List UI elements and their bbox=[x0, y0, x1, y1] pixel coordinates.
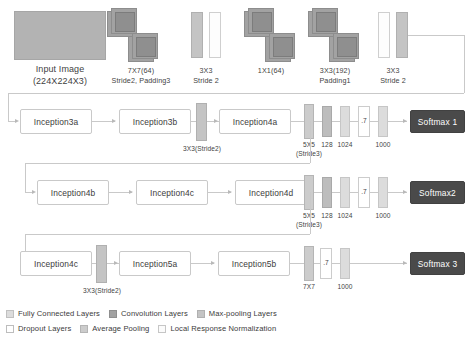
wire-aux2-c bbox=[350, 192, 358, 193]
legend: Fully Connected Layers Convolution Layer… bbox=[6, 306, 466, 336]
maxpool-row1-label: 3X3(Stride2) bbox=[166, 145, 238, 154]
arrow-pool-to-5a bbox=[114, 261, 118, 265]
conv-3x3-192-label-line1: 3X3(192) bbox=[301, 66, 369, 75]
fc-1024-aux1 bbox=[340, 106, 350, 137]
conv-3x3-192-label-line2: Padding1 bbox=[301, 76, 369, 85]
softmax-1-box[interactable]: Softmax 1 bbox=[410, 110, 465, 133]
wire-row1-wrap-down bbox=[25, 163, 26, 192]
head-out-label: 1000 bbox=[332, 283, 358, 292]
maxpool-3x3-bar bbox=[191, 12, 203, 58]
arrow-3a-to-3b bbox=[112, 119, 116, 123]
arrow-into-inception3a bbox=[15, 119, 19, 123]
wire-aux2-a bbox=[314, 192, 322, 193]
legend-row-2: Dropout Layers Average Pooling Local Res… bbox=[6, 321, 466, 336]
diagram-canvas: Input Image (224X224X3) 7X7(64) Stride2,… bbox=[0, 0, 471, 344]
legend-label-convolution: Convolution Layers bbox=[121, 309, 188, 318]
wire-aux1-d bbox=[370, 121, 378, 122]
wire-row2-wrap-left bbox=[25, 234, 310, 235]
legend-item-fully-connected-layers: Fully Connected Layers bbox=[6, 309, 100, 318]
avgpool-5x5-aux2 bbox=[304, 175, 314, 210]
softmax-2-box[interactable]: Softmax2 bbox=[410, 181, 465, 204]
maxpool-3x3-bar-2 bbox=[396, 12, 408, 58]
wire-4a-branch-down bbox=[310, 121, 311, 163]
legend-item-max-pooling-layers: Max-pooling Layers bbox=[197, 309, 277, 318]
pool2-label-line2: Stride 2 bbox=[363, 76, 423, 85]
fc-1000-aux2 bbox=[378, 177, 388, 208]
wire-aux2-b bbox=[332, 192, 340, 193]
fc-1024-aux2 bbox=[340, 177, 350, 208]
head-pool-label: 7X7 bbox=[296, 283, 322, 292]
block-inception3b[interactable]: Inception3b bbox=[119, 109, 191, 134]
avgpool-5x5-aux1 bbox=[304, 104, 314, 139]
wire-stem-to-right bbox=[408, 35, 464, 36]
arrow-pool-to-4a bbox=[214, 119, 218, 123]
block-inception4a[interactable]: Inception4a bbox=[219, 109, 291, 134]
input-image-block bbox=[14, 11, 106, 60]
aux2-fc-label: 1024 bbox=[332, 212, 358, 221]
legend-label-fully-connected: Fully Connected Layers bbox=[18, 309, 100, 318]
block-inception4b[interactable]: Inception4b bbox=[37, 180, 109, 205]
softmax-3-box[interactable]: Softmax 3 bbox=[410, 252, 465, 275]
maxpool-row3-label: 3X3(Stride2) bbox=[66, 287, 138, 296]
legend-swatch-dropout bbox=[6, 325, 14, 333]
aux1-out-label: 1000 bbox=[370, 141, 396, 150]
block-inception4b-label: Inception4b bbox=[51, 188, 95, 198]
wire-left-down-row1 bbox=[8, 93, 9, 121]
conv-128-aux2 bbox=[322, 177, 332, 208]
wire-4d-branch-down bbox=[310, 192, 311, 234]
aux2-pool-label-line2: (Stride3) bbox=[291, 221, 327, 230]
block-inception5b[interactable]: Inception5b bbox=[218, 251, 290, 276]
block-inception3b-label: Inception3b bbox=[133, 117, 177, 127]
fc-1000-aux1 bbox=[378, 106, 388, 137]
legend-label-max-pooling: Max-pooling Layers bbox=[209, 309, 277, 318]
pool1-label-line1: 3X3 bbox=[176, 66, 236, 75]
block-inception5b-label: Inception5b bbox=[232, 259, 276, 269]
wire-aux2-d bbox=[370, 192, 378, 193]
legend-swatch-convolution bbox=[109, 310, 117, 318]
legend-item-convolution-layers: Convolution Layers bbox=[109, 309, 188, 318]
legend-swatch-lrn bbox=[158, 325, 166, 333]
block-inception3a-label: Inception3a bbox=[34, 117, 78, 127]
dropout-aux1-label: .7 bbox=[358, 117, 370, 126]
arrow-into-inception4b bbox=[32, 190, 36, 194]
wire-aux1-b bbox=[332, 121, 340, 122]
wire-head-to-softmax bbox=[350, 263, 407, 264]
lrn-bar-1 bbox=[209, 12, 221, 58]
arrow-head-to-softmax bbox=[403, 261, 407, 265]
conv-1x1-label-line1: 1X1(64) bbox=[238, 66, 304, 75]
block-inception4d-label: Inception4d bbox=[249, 188, 293, 198]
conv-7x7-label-line2: Stride2, Padding3 bbox=[98, 76, 184, 85]
legend-swatch-average-pooling bbox=[80, 325, 88, 333]
block-inception4c-row3[interactable]: Inception4c bbox=[20, 251, 92, 276]
wire-aux1-c bbox=[350, 121, 358, 122]
pool1-label-line2: Stride 2 bbox=[176, 76, 236, 85]
softmax-3-label: Softmax 3 bbox=[418, 259, 458, 269]
conv-3x3-192-stack bbox=[307, 8, 369, 66]
maxpool-3x3-row3 bbox=[96, 245, 107, 283]
block-inception4c-row2-label: Inception4c bbox=[150, 188, 194, 198]
input-image-label-line1: Input Image bbox=[14, 63, 106, 75]
wire-right-down bbox=[464, 35, 465, 93]
legend-row-1: Fully Connected Layers Convolution Layer… bbox=[6, 306, 466, 321]
arrow-aux2-to-softmax bbox=[403, 190, 407, 194]
block-inception5a-label: Inception5a bbox=[133, 259, 177, 269]
legend-item-dropout-layers: Dropout Layers bbox=[6, 324, 71, 333]
maxpool-3x3-row1 bbox=[196, 103, 207, 141]
avgpool-7x7-head bbox=[304, 246, 314, 281]
softmax-2-label: Softmax2 bbox=[419, 188, 456, 198]
block-inception4c-row2[interactable]: Inception4c bbox=[136, 180, 208, 205]
legend-item-average-pooling: Average Pooling bbox=[80, 324, 149, 333]
softmax-1-label: Softmax 1 bbox=[418, 117, 458, 127]
block-inception5a[interactable]: Inception5a bbox=[119, 251, 191, 276]
block-inception4d[interactable]: Inception4d bbox=[235, 180, 307, 205]
wire-row1-wrap-left bbox=[25, 163, 310, 164]
block-inception4c-row3-label: Inception4c bbox=[34, 259, 78, 269]
aux2-out-label: 1000 bbox=[370, 212, 396, 221]
wire-wrap-to-left bbox=[8, 93, 464, 94]
arrow-aux1-to-softmax bbox=[403, 119, 407, 123]
dropout-head-label: .7 bbox=[320, 259, 332, 268]
fc-1000-head bbox=[340, 248, 350, 279]
block-inception3a[interactable]: Inception3a bbox=[20, 109, 92, 134]
lrn-bar-2 bbox=[378, 12, 390, 58]
legend-label-average-pooling: Average Pooling bbox=[92, 324, 149, 333]
